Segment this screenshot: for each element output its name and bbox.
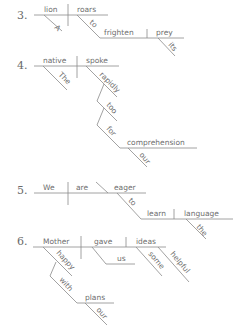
verb-word: roars xyxy=(77,5,96,14)
diagram-5: 5. We are eager to learn language the xyxy=(17,182,233,239)
diagram-number: 4. xyxy=(17,59,28,72)
object-word: language xyxy=(184,209,219,218)
diagram-4: 4. native spoke The rapidly too for comp… xyxy=(17,56,197,167)
modifier-word: our xyxy=(94,306,109,322)
predicate-slash xyxy=(96,182,108,193)
modifier-word: its xyxy=(167,40,180,53)
verb-word: spoke xyxy=(86,56,108,65)
indirect-object-slant xyxy=(92,247,106,264)
diagram-6: 6. Mother gave ideas happy with plans ou… xyxy=(17,235,192,325)
infinitive-to: to xyxy=(127,196,139,208)
infinitive-slant xyxy=(77,15,100,38)
infinitive-verb: learn xyxy=(147,209,166,218)
modifier-word: the xyxy=(194,223,209,239)
adverb-modifier-word: too xyxy=(104,101,119,116)
diagram-number: 6. xyxy=(17,235,28,248)
predicate-adj-word: eager xyxy=(114,183,137,192)
subject-word: Mother xyxy=(43,237,70,246)
modifier-word: some xyxy=(146,250,166,272)
object-word: ideas xyxy=(136,237,156,246)
connector-line xyxy=(50,262,56,276)
modifier-word: happy xyxy=(55,248,78,272)
infinitive-slant xyxy=(117,193,141,219)
modifier-word: The xyxy=(56,69,73,86)
subject-word: We xyxy=(43,183,55,192)
preposition-word: with xyxy=(58,275,76,293)
infinitive-verb: frighten xyxy=(104,28,134,37)
diagram-number: 3. xyxy=(17,9,28,22)
prep-object-word: plans xyxy=(85,293,105,302)
object-word: prey xyxy=(156,28,173,37)
diagram-3: 3. lion roars A to frighten prey its xyxy=(17,4,184,56)
prep-object-word: comprehension xyxy=(127,138,185,147)
connector-line xyxy=(97,108,104,125)
verb-word: gave xyxy=(94,237,113,246)
indirect-object-word: us xyxy=(117,254,126,263)
verb-word: are xyxy=(76,183,89,192)
preposition-word: for xyxy=(105,124,119,138)
modifier-word: our xyxy=(137,151,152,167)
subject-word: native xyxy=(43,56,67,65)
subject-word: lion xyxy=(44,5,58,14)
connector-line xyxy=(97,84,104,101)
sentence-diagrams: 3. lion roars A to frighten prey its 4. … xyxy=(0,0,246,332)
diagram-number: 5. xyxy=(17,184,28,197)
